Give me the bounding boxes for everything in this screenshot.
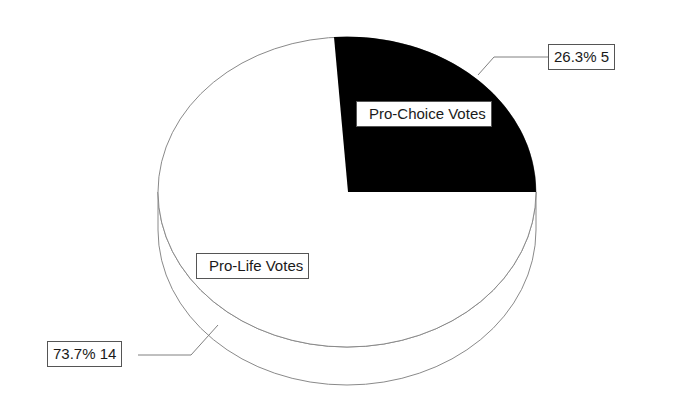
data-label-pro-choice-name: Pro-Choice Votes (356, 101, 492, 127)
data-label-pro-choice-value: 26.3% 5 (548, 44, 615, 70)
data-label-pro-life-value: 73.7% 14 (47, 341, 122, 367)
data-label-pro-life-name: Pro-Life Votes (196, 253, 309, 279)
leader-line-pro-choice (478, 57, 548, 75)
